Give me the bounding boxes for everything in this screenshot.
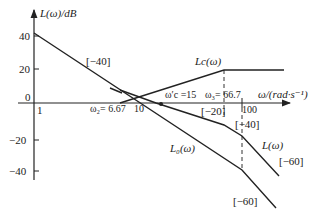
Lc-curve-label: Lc(ω) bbox=[195, 56, 221, 67]
x-tick-1: 1 bbox=[37, 105, 43, 116]
L0-curve-label: L₀(ω) bbox=[170, 143, 195, 154]
omega-c-prime-marker bbox=[159, 102, 163, 106]
x-axis-label: ω/(rad·s⁻¹) bbox=[258, 89, 308, 100]
omega-c-prime-label: ω′c =15 bbox=[165, 90, 196, 100]
slope-m60-L0: [−60] bbox=[233, 196, 258, 207]
hundred-label: 100 bbox=[242, 105, 257, 115]
y-tick-minus20: −20 bbox=[9, 135, 26, 146]
slope-m40-mid: [−40] bbox=[235, 119, 260, 130]
ten-label: 10 bbox=[134, 104, 144, 114]
y-tick-0: 0 bbox=[25, 92, 31, 103]
bode-plot bbox=[0, 0, 318, 216]
omega3-label: ω₃= 66.7 bbox=[205, 90, 241, 100]
slope-m20: [−20] bbox=[201, 106, 226, 117]
y-tick-20: 20 bbox=[19, 64, 30, 75]
y-tick-minus40: −40 bbox=[9, 166, 26, 177]
y-axis-label: L(ω)/dB bbox=[40, 8, 77, 19]
L-curve-label: L(ω) bbox=[262, 140, 283, 151]
slope-m60-L: [−60] bbox=[279, 156, 304, 167]
omega2-label: ω₂= 6.67 bbox=[90, 104, 126, 114]
y-tick-40: 40 bbox=[19, 31, 30, 42]
slope-m40-top: [−40] bbox=[86, 56, 111, 67]
